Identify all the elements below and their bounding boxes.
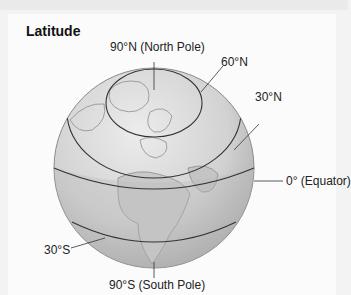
- label-equator: 0° (Equator): [286, 174, 351, 188]
- label-60n: 60°N: [221, 55, 248, 69]
- label-30s: 30°S: [44, 243, 70, 257]
- label-south-pole: 90°S (South Pole): [109, 278, 205, 292]
- label-30n: 30°N: [255, 90, 282, 104]
- label-north-pole: 90°N (North Pole): [110, 40, 205, 54]
